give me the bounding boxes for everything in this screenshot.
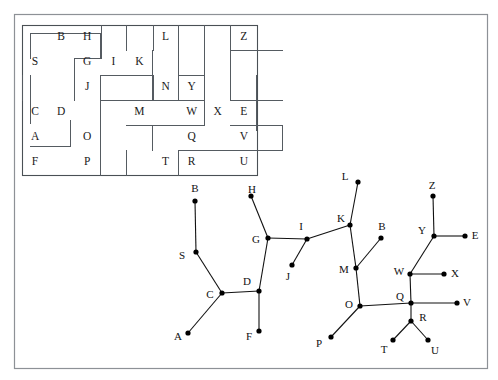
graph-node-label-K: K (337, 212, 345, 224)
graph-node-label-L: L (342, 170, 349, 182)
graph-edge-Y-Z (433, 196, 434, 236)
maze-cell-label-G: G (83, 55, 91, 67)
graph-node-label-C: C (206, 288, 213, 300)
graph-edge-D-G (259, 238, 268, 291)
maze-cell-label-H: H (83, 30, 91, 42)
graph-edge-I-J (292, 239, 307, 265)
maze-cell-label-E: E (240, 105, 247, 117)
maze-cell-label-M: M (134, 105, 144, 117)
graph-node-label-G: G (252, 233, 260, 245)
maze-cell-label-U: U (240, 155, 249, 167)
graph-node-label-O: O (345, 298, 353, 310)
maze-cell-label-A: A (31, 130, 40, 142)
graph-node-Y (431, 233, 436, 238)
maze-walls (23, 26, 283, 176)
graph-edge-C-D (222, 291, 259, 293)
graph-node-label-F: F (246, 330, 252, 342)
graph-node-M (353, 265, 358, 270)
graph-edge-R-T (393, 321, 411, 340)
maze-cell-label-Y: Y (187, 80, 196, 92)
maze-cell-label-S: S (32, 55, 38, 67)
graph-node-F (256, 328, 261, 333)
graph-node-U (425, 337, 430, 342)
maze-cell-label-T: T (162, 155, 169, 167)
graph-edge-K-L (350, 182, 358, 225)
graph-node-label-H: H (248, 183, 256, 195)
graph-edge-B-S (195, 201, 196, 252)
graph-node-P (328, 334, 333, 339)
figure-svg: SCAFBDHGJOPIKMLNTYWQRXZEVU BSCADFGHIJLKB… (0, 0, 498, 380)
graph-node-B2 (378, 235, 383, 240)
graph-node-C (219, 290, 224, 295)
graph-node-J (289, 262, 294, 267)
graph-node-T (390, 337, 395, 342)
maze-cell-label-P: P (84, 155, 90, 167)
graph-node-D (256, 288, 261, 293)
graph-node-R (408, 318, 413, 323)
maze-cell-label-K: K (135, 55, 144, 67)
graph-edge-I-K (307, 225, 350, 239)
maze-cell-label-J: J (85, 80, 90, 92)
maze-cell-label-W: W (186, 105, 197, 117)
graph-node-X (441, 271, 446, 276)
graph-edge-W-Y (410, 236, 434, 274)
graph-node-I (304, 236, 309, 241)
graph-edge-O-Q (360, 303, 411, 306)
maze-cell-label-B: B (57, 30, 65, 42)
maze-cell-label-D: D (57, 105, 65, 117)
graph-node-G (265, 235, 270, 240)
maze-cell-label-L: L (162, 30, 169, 42)
graph-node-label-V: V (463, 296, 471, 308)
maze-cell-label-V: V (240, 130, 249, 142)
graph-node-L (355, 179, 360, 184)
graph-node-Z (430, 193, 435, 198)
graph-edge-M-B2 (356, 238, 381, 268)
graph-node-Q (408, 300, 413, 305)
graph-node-K (347, 222, 352, 227)
maze-cell-label-O: O (83, 130, 91, 142)
graph-node-A (185, 330, 190, 335)
graph-node-S (193, 249, 198, 254)
graph-node-E (462, 233, 467, 238)
graph-node-label-I: I (299, 220, 303, 232)
maze-cell-label-Q: Q (187, 130, 196, 142)
graph-node-label-Y: Y (418, 224, 426, 236)
graph-node-label-J: J (286, 270, 291, 282)
graph-node-label-B: B (191, 182, 198, 194)
graph-node-label-W: W (394, 265, 405, 277)
graph-edge-O-P (331, 306, 360, 337)
graph-edge-Q-W (410, 274, 411, 303)
graph-node-label-B2: B (378, 220, 385, 232)
maze-cell-label-F: F (32, 155, 38, 167)
graph-node-O (357, 303, 362, 308)
graph-node-label-D: D (243, 275, 251, 287)
graph-node-label-E: E (472, 229, 479, 241)
graph-edge-R-U (411, 321, 428, 340)
graph-node-label-M: M (339, 263, 349, 275)
maze-cell-label-C: C (31, 105, 39, 117)
graph-edge-C-A (188, 293, 222, 333)
graph-node-B (192, 198, 197, 203)
graph-node-W (407, 271, 412, 276)
graph-node-label-P: P (316, 337, 322, 349)
graph-edge-G-I (268, 238, 307, 239)
graph-edge-K-M (350, 225, 356, 268)
graph-node-label-Z: Z (429, 179, 436, 191)
graph-node-label-R: R (419, 311, 427, 323)
graph-node-label-S: S (179, 249, 185, 261)
graph-node-label-A: A (174, 330, 182, 342)
graph-node-label-T: T (381, 343, 388, 355)
maze-cell-label-R: R (188, 155, 196, 167)
maze-cell-label-N: N (161, 80, 170, 92)
graph-node-V (454, 300, 459, 305)
maze-cell-label-Z: Z (240, 30, 247, 42)
figure-canvas: SCAFBDHGJOPIKMLNTYWQRXZEVU BSCADFGHIJLKB… (0, 0, 498, 380)
graph-node-label-U: U (431, 344, 439, 356)
maze-cell-label-I: I (111, 55, 115, 67)
graph-node-label-Q: Q (396, 290, 404, 302)
graph-edge-M-O (356, 268, 360, 306)
maze-cell-label-X: X (214, 105, 223, 117)
graph-node-label-X: X (451, 267, 459, 279)
